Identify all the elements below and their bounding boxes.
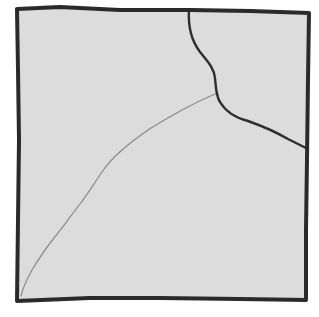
tile-fill [17,7,309,301]
cracked-tile-drawing [0,0,319,317]
sketch-canvas [0,0,319,317]
